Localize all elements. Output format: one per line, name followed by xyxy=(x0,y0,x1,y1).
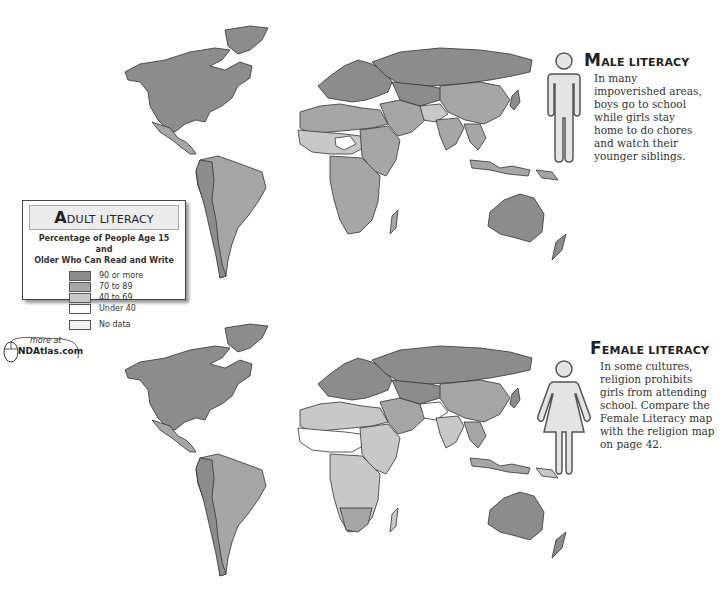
legend-swatch xyxy=(69,293,91,303)
southeast-asia xyxy=(464,124,486,150)
legend-item-no-data: No data xyxy=(69,319,179,330)
more-at-text: more at xyxy=(30,336,61,345)
legend-title-rest: DULT LITERACY xyxy=(67,213,154,226)
legend-subtitle-line2: Older Who Can Read and Write xyxy=(29,255,179,266)
male-title-rest: ALE LITERACY xyxy=(601,56,689,69)
legend-label: No data xyxy=(99,320,130,329)
legend-item-70-to-89: 70 to 89 xyxy=(69,281,179,292)
greenland xyxy=(225,324,268,352)
legend-swatch xyxy=(69,320,91,330)
australia xyxy=(488,194,544,242)
indonesia xyxy=(470,160,530,176)
male-literacy-caption: MALE LITERACY In many impoverished areas… xyxy=(584,50,704,163)
legend-title-initial: A xyxy=(54,208,67,227)
legend-swatch xyxy=(69,271,91,281)
legend-item-40-to-69: 40 to 69 xyxy=(69,292,179,303)
male-literacy-title: MALE LITERACY xyxy=(584,50,704,70)
japan xyxy=(510,388,520,408)
ndatlas-url[interactable]: NDAtlas.com xyxy=(18,346,83,356)
legend-item-under-40: Under 40 xyxy=(69,303,179,314)
legend-items: 90 or more 70 to 89 40 to 69 Under 40 No… xyxy=(69,270,179,330)
female-title-rest: EMALE LITERACY xyxy=(602,344,709,357)
female-figure-icon xyxy=(536,360,592,476)
female-literacy-title: FEMALE LITERACY xyxy=(590,338,718,358)
legend: ADULT LITERACY Percentage of People Age … xyxy=(22,200,186,300)
madagascar xyxy=(390,210,398,234)
north-america xyxy=(125,346,252,430)
legend-item-90-or-more: 90 or more xyxy=(69,270,179,281)
female-literacy-caption: FEMALE LITERACY In some cultures, religi… xyxy=(590,338,718,451)
legend-label: 70 to 89 xyxy=(99,282,132,291)
china xyxy=(440,82,510,124)
russia xyxy=(372,48,532,86)
legend-subtitle: Percentage of People Age 15 and Older Wh… xyxy=(29,233,179,266)
north-america xyxy=(125,48,252,132)
male-title-initial: M xyxy=(584,50,601,70)
russia xyxy=(372,346,532,384)
papua xyxy=(536,170,558,180)
legend-label: Under 40 xyxy=(99,304,136,313)
africa-sahel xyxy=(298,428,370,452)
japan xyxy=(510,90,520,110)
india xyxy=(436,416,464,448)
greenland xyxy=(225,26,268,54)
madagascar xyxy=(390,508,398,532)
new-zealand xyxy=(552,234,566,260)
female-title-initial: F xyxy=(590,338,602,358)
female-literacy-body: In some cultures, religion prohibits gir… xyxy=(600,360,718,451)
africa-south xyxy=(340,508,372,532)
legend-label: 40 to 69 xyxy=(99,293,132,302)
legend-title: ADULT LITERACY xyxy=(29,205,179,230)
legend-subtitle-line1: Percentage of People Age 15 and xyxy=(29,233,179,255)
more-at-ndatlas-link[interactable]: more at NDAtlas.com xyxy=(0,336,90,366)
australia xyxy=(488,492,544,540)
indonesia xyxy=(470,458,530,474)
india xyxy=(436,118,464,150)
africa-sahel xyxy=(298,130,370,154)
male-figure-icon xyxy=(546,52,582,164)
male-literacy-body: In many impoverished areas, boys go to s… xyxy=(594,72,704,163)
china xyxy=(440,380,510,422)
legend-label: 90 or more xyxy=(99,271,143,280)
new-zealand xyxy=(552,532,566,558)
legend-swatch xyxy=(69,282,91,292)
legend-swatch xyxy=(69,304,91,314)
southeast-asia xyxy=(464,422,486,448)
